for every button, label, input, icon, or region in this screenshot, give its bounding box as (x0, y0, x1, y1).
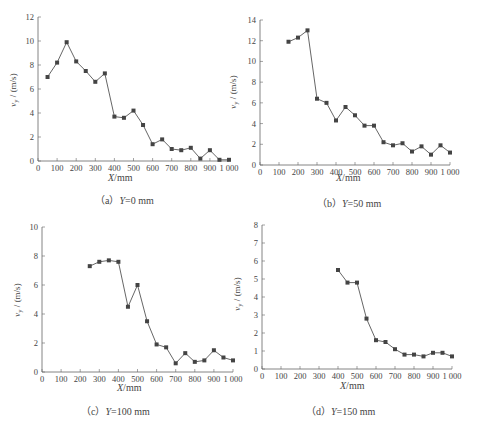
data-series-line (90, 260, 233, 363)
data-point-marker (193, 360, 197, 364)
chart-d: 01002003004005006007008009001 0000123456… (232, 220, 462, 381)
x-tick-label: 800 (406, 167, 419, 177)
y-tick-label: 14 (248, 15, 257, 25)
data-point-marker (116, 260, 120, 264)
data-point-marker (412, 353, 416, 357)
data-point-marker (429, 153, 433, 157)
y-tick-label: 3 (254, 310, 258, 320)
data-point-marker (306, 28, 310, 32)
y-tick-label: 6 (34, 280, 38, 290)
data-point-marker (231, 358, 235, 362)
data-point-marker (126, 305, 130, 309)
y-tick-label: 12 (26, 12, 35, 22)
x-tick-label: 0 (258, 167, 262, 177)
x-tick-label: 0 (36, 163, 40, 173)
data-point-marker (122, 116, 126, 120)
data-point-marker (198, 157, 202, 161)
data-point-marker (325, 101, 329, 105)
data-point-marker (55, 61, 59, 65)
x-tick-label: 100 (273, 167, 286, 177)
y-tick-label: 8 (30, 60, 34, 70)
x-tick-label: 200 (294, 371, 307, 381)
y-tick-label: 2 (254, 328, 258, 338)
data-point-marker (401, 141, 405, 145)
x-axis-label: X/mm (336, 172, 360, 183)
data-point-marker (160, 137, 164, 141)
subfigure-caption-c: （c）Y=100 mm (81, 403, 150, 418)
y-tick-label: 0 (34, 367, 38, 377)
y-axis-label: vy / (m/s) (228, 75, 239, 108)
x-tick-label: 1 000 (223, 374, 242, 384)
y-tick-label: 1 (254, 346, 258, 356)
data-point-marker (212, 348, 216, 352)
data-point-marker (382, 140, 386, 144)
y-axis-label: vy / (m/s) (232, 277, 243, 310)
data-point-marker (136, 283, 140, 287)
x-tick-label: 200 (292, 167, 305, 177)
data-point-marker (403, 353, 407, 357)
x-tick-label: 700 (169, 374, 182, 384)
x-tick-label: 300 (93, 374, 106, 384)
data-point-marker (84, 69, 88, 73)
data-point-marker (393, 347, 397, 351)
y-axis-label: vy / (m/s) (8, 73, 19, 106)
data-point-marker (88, 264, 92, 268)
x-axis-label: X/mm (117, 382, 141, 393)
data-point-marker (145, 319, 149, 323)
y-tick-label: 0 (252, 160, 256, 170)
data-point-marker (97, 260, 101, 264)
x-tick-label: 600 (150, 374, 163, 384)
data-point-marker (151, 142, 155, 146)
data-point-marker (374, 338, 378, 342)
x-tick-label: 0 (260, 371, 264, 381)
y-tick-label: 12 (248, 36, 257, 46)
chart-a: 01002003004005006007008009001 0000246810… (8, 12, 239, 173)
y-tick-label: 5 (254, 274, 258, 284)
x-tick-label: 1 000 (440, 167, 459, 177)
y-tick-label: 0 (254, 364, 258, 374)
x-tick-label: 1 000 (442, 371, 461, 381)
data-point-marker (420, 144, 424, 148)
y-tick-label: 0 (30, 156, 34, 166)
data-point-marker (170, 147, 174, 151)
x-tick-label: 600 (368, 167, 381, 177)
chart-b: 01002003004005006007008009001 0000246810… (228, 15, 460, 177)
x-tick-label: 900 (425, 167, 438, 177)
x-tick-label: 800 (184, 163, 197, 173)
x-tick-label: 700 (387, 167, 400, 177)
figure-canvas: 01002003004005006007008009001 0000246810… (0, 0, 478, 435)
data-point-marker (365, 317, 369, 321)
data-point-marker (315, 97, 319, 101)
x-tick-label: 600 (370, 371, 383, 381)
data-point-marker (174, 361, 178, 365)
x-tick-label: 200 (70, 163, 83, 173)
x-axis-label: X/mm (340, 380, 364, 391)
x-tick-label: 100 (51, 163, 64, 173)
x-tick-label: 600 (146, 163, 159, 173)
y-tick-label: 10 (30, 222, 39, 232)
data-point-marker (93, 80, 97, 84)
data-point-marker (112, 115, 116, 119)
data-point-marker (208, 148, 212, 152)
y-tick-label: 10 (248, 56, 257, 66)
data-point-marker (410, 150, 414, 154)
y-tick-label: 8 (252, 77, 256, 87)
data-point-marker (355, 281, 359, 285)
data-point-marker (431, 351, 435, 355)
x-tick-label: 200 (74, 374, 87, 384)
data-point-marker (448, 151, 452, 155)
x-tick-label: 100 (275, 371, 288, 381)
data-point-marker (391, 143, 395, 147)
data-point-marker (372, 124, 376, 128)
data-point-marker (132, 109, 136, 113)
y-tick-label: 2 (252, 139, 256, 149)
data-point-marker (65, 40, 69, 44)
x-tick-label: 800 (408, 371, 421, 381)
data-point-marker (439, 143, 443, 147)
data-point-marker (334, 118, 338, 122)
y-tick-label: 6 (30, 84, 34, 94)
y-tick-label: 4 (252, 119, 257, 129)
data-point-marker (336, 268, 340, 272)
data-point-marker (441, 351, 445, 355)
data-point-marker (221, 356, 225, 360)
